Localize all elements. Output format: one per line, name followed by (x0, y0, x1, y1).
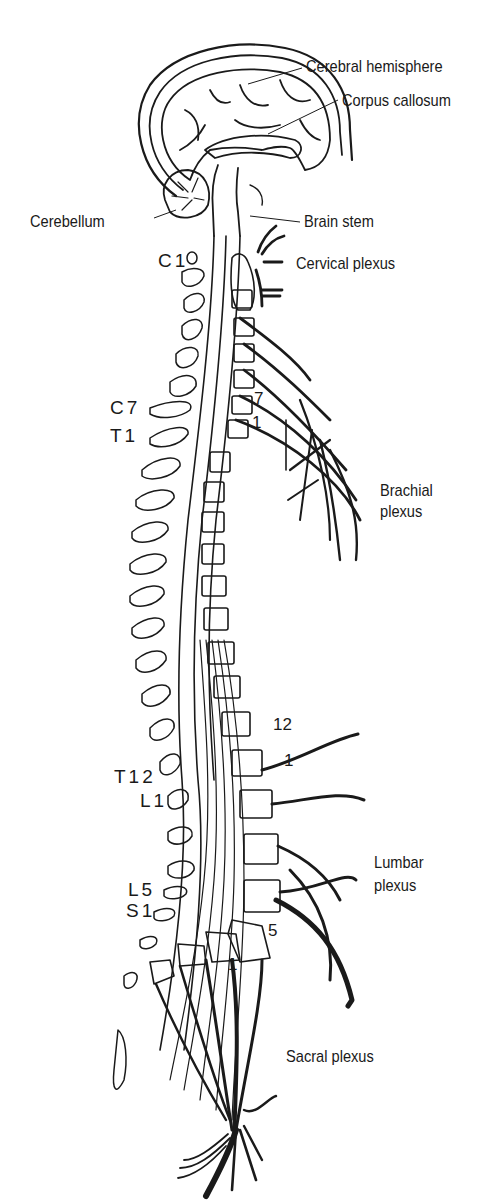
label-cerebral-hemisphere: Cerebral hemisphere (306, 57, 443, 76)
label-brachial-plexus-line2: plexus (380, 502, 422, 521)
level-s1: S1 (126, 901, 155, 921)
number-sacral-1: 1 (228, 956, 237, 974)
level-t12: T12 (114, 767, 156, 787)
label-cervical-plexus: Cervical plexus (296, 254, 395, 273)
label-sacral-plexus: Sacral plexus (286, 1047, 374, 1066)
leader-lines (0, 0, 478, 1204)
level-c7: C7 (110, 398, 140, 418)
number-thoracic-12: 12 (273, 716, 292, 734)
label-corpus-callosum: Corpus callosum (342, 91, 451, 110)
number-lumbar-1: 1 (284, 752, 293, 770)
spinal-cord-diagram: Cerebral hemisphere Corpus callosum Cere… (0, 0, 478, 1204)
label-lumbar-plexus-line2: plexus (374, 876, 416, 895)
level-c1: C1 (158, 251, 188, 271)
number-cervical-7: 7 (254, 390, 263, 408)
number-lumbar-5: 5 (268, 922, 277, 940)
label-lumbar-plexus-line1: Lumbar (374, 853, 424, 872)
label-brain-stem: Brain stem (304, 212, 374, 231)
level-l5: L5 (128, 880, 155, 900)
level-t1: T1 (110, 426, 138, 446)
label-cerebellum: Cerebellum (30, 212, 105, 231)
number-thoracic-1: 1 (252, 414, 261, 432)
label-brachial-plexus-line1: Brachial (380, 481, 433, 500)
level-l1: L1 (140, 791, 167, 811)
